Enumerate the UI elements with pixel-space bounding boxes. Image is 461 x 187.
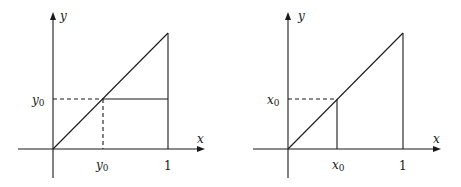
right-x-tick-one: 1 <box>399 159 407 173</box>
left-panel: y x y0 y0 1 <box>18 9 205 178</box>
left-x-tick-label: y0 <box>95 158 109 173</box>
right-diagonal-line <box>288 33 403 149</box>
diagram-canvas: y x y0 y0 1 y x x0 x0 1 <box>0 0 461 187</box>
left-y-axis-label: y <box>59 9 67 23</box>
left-x-tick-one: 1 <box>164 159 172 173</box>
right-y-axis-arrow-icon <box>285 12 291 20</box>
left-y-axis-arrow-icon <box>50 12 56 20</box>
right-x-tick-label: x0 <box>332 158 345 173</box>
right-x-axis-label: x <box>433 132 440 146</box>
right-y-axis-label: y <box>297 9 305 23</box>
right-x-axis-arrow-icon <box>433 146 441 152</box>
left-x-axis-label: x <box>197 132 204 146</box>
left-diagonal-line <box>53 33 168 149</box>
left-y-tick-label: y0 <box>31 93 45 108</box>
right-y-tick-label: x0 <box>267 93 280 108</box>
left-x-axis-arrow-icon <box>197 146 205 152</box>
right-panel: y x x0 x0 1 <box>253 9 441 178</box>
